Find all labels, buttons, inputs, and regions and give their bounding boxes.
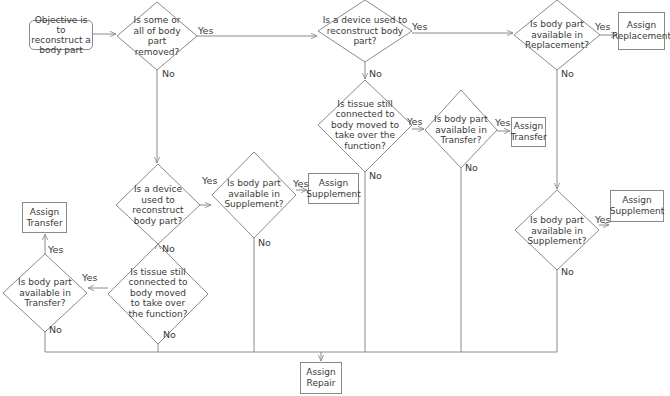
decision-supplement-mid: Is body part available in Supplement? (212, 174, 296, 214)
outcome-transfer-top: Assign Transfer (511, 117, 546, 147)
start-node: Objective is to reconstruct a body part (29, 20, 93, 50)
decision-supplement-right: Is body part available in Supplement? (515, 212, 599, 250)
edge-label-yes: Yes (407, 116, 422, 127)
decision-device-mid: Is a device used to reconstruct body par… (128, 180, 188, 230)
edge-label-no: No (561, 266, 574, 277)
outcome-supplement-right: Assign Supplement (610, 190, 664, 222)
edge-label-yes: Yes (495, 117, 510, 128)
edge-label-no: No (369, 68, 382, 79)
decision-removed: Is some or all of body part removed? (127, 12, 187, 60)
outcome-supplement-mid: Assign Supplement (308, 173, 359, 204)
edge-label-no: No (369, 170, 382, 181)
edge-label-no: No (49, 324, 62, 335)
decision-tissue-bottom: Is tissue still connected to body moved … (126, 258, 190, 328)
edge-label-yes: Yes (293, 178, 308, 189)
edge-label-yes: Yes (595, 214, 610, 225)
edge-label-no: No (561, 68, 574, 79)
edge-label-yes: Yes (412, 21, 427, 32)
outcome-replacement: Assign Replacement (618, 12, 665, 50)
edge-label-yes: Yes (202, 175, 217, 186)
decision-transfer-left: Is body part available in Transfer? (12, 275, 78, 311)
edge-label-no: No (162, 243, 175, 254)
decision-device-top: Is a device used to reconstruct body par… (320, 6, 410, 56)
decision-transfer-top: Is body part available in Transfer? (428, 112, 494, 148)
edge-label-yes: Yes (595, 21, 610, 32)
outcome-repair: Assign Repair (300, 362, 342, 394)
decision-tissue-top: Is tissue still connected to body moved … (330, 96, 400, 154)
edge-label-no: No (465, 162, 478, 173)
edge-label-no: No (163, 329, 176, 340)
edge-label-yes: Yes (82, 272, 97, 283)
edge-label-no: No (258, 237, 271, 248)
edge-label-yes: Yes (48, 244, 63, 255)
outcome-transfer-left: Assign Transfer (22, 202, 67, 233)
edge-label-yes: Yes (198, 25, 213, 36)
edge-label-no: No (162, 68, 175, 79)
decision-replacement: Is body part available in Replacement? (514, 16, 600, 54)
